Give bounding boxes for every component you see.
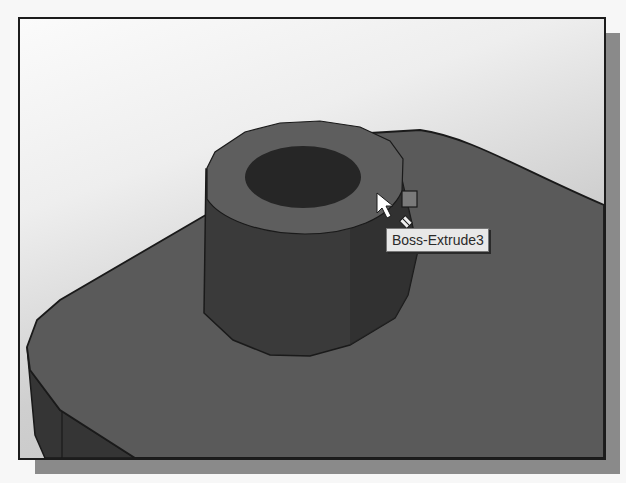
- graphics-viewport[interactable]: Boss-Extrude3: [18, 17, 606, 460]
- tooltip-label: Boss-Extrude3: [392, 232, 484, 248]
- boss-hole[interactable]: [245, 146, 361, 208]
- feature-tooltip: Boss-Extrude3: [386, 228, 489, 252]
- face-select-icon: [402, 191, 417, 207]
